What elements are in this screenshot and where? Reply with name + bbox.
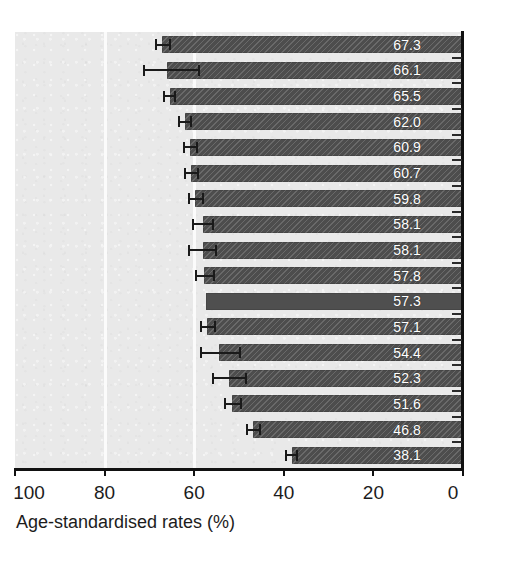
bar-value-label: 62.0: [393, 113, 421, 129]
y-axis-tick: [452, 236, 462, 238]
bar-row: 60.7: [15, 165, 463, 182]
error-bar-cap: [174, 91, 176, 102]
error-bar-cap: [200, 347, 202, 358]
error-bar-cap: [200, 321, 202, 332]
bar-value-label: 58.1: [393, 216, 421, 232]
error-bar-cap: [213, 270, 215, 281]
error-bar-line: [189, 198, 203, 200]
bar: 62.0: [185, 113, 463, 130]
error-bar-cap: [214, 321, 216, 332]
error-bar-cap: [188, 245, 190, 256]
bar: 60.7: [191, 165, 463, 182]
error-bar-cap: [195, 270, 197, 281]
bar-row: 54.4: [15, 344, 463, 361]
x-axis-line: [15, 468, 464, 471]
bar: 46.8: [253, 421, 463, 438]
error-bar-cap: [224, 398, 226, 409]
error-bar-cap: [143, 65, 145, 76]
x-axis-tick: [372, 468, 374, 476]
error-bar-cap: [198, 65, 200, 76]
x-axis-tick: [14, 468, 16, 476]
bar: 51.6: [232, 395, 463, 412]
y-axis-tick: [452, 262, 462, 264]
error-bar-cap: [169, 39, 171, 50]
error-bar-cap: [178, 116, 180, 127]
error-bar-cap: [188, 193, 190, 204]
bar-row: 67.3: [15, 36, 463, 53]
bar-row: 57.3: [15, 293, 463, 310]
error-bar-line: [213, 377, 246, 379]
error-bar-line: [196, 275, 214, 277]
error-bar-line: [225, 403, 241, 405]
error-bar-cap: [215, 245, 217, 256]
x-axis-label: Age-standardised rates (%): [16, 512, 235, 533]
bar-row: 52.3: [15, 370, 463, 387]
error-bar-line: [156, 44, 170, 46]
y-axis-tick: [452, 82, 462, 84]
x-axis-tick: [104, 468, 106, 476]
error-bar-cap: [190, 116, 192, 127]
bar-row: 57.8: [15, 267, 463, 284]
bar-row: 65.5: [15, 88, 463, 105]
bar: 67.3: [162, 36, 464, 53]
bar-value-label: 57.8: [393, 267, 421, 283]
bar-value-label: 67.3: [393, 36, 421, 52]
bar: 66.1: [167, 62, 463, 79]
bar: 59.8: [195, 190, 463, 207]
bar-row: 58.1: [15, 216, 463, 233]
error-bar-cap: [212, 373, 214, 384]
bar-value-label: 58.1: [393, 242, 421, 258]
bar: 54.4: [219, 344, 463, 361]
bar-value-label: 57.1: [393, 319, 421, 335]
bar-value-label: 38.1: [393, 447, 421, 463]
error-bar-cap: [245, 373, 247, 384]
y-axis-tick: [452, 390, 462, 392]
y-axis-tick: [452, 287, 462, 289]
error-bar-cap: [240, 398, 242, 409]
y-axis-tick: [452, 364, 462, 366]
error-bar-line: [144, 69, 198, 71]
bar: 52.3: [229, 370, 463, 387]
x-axis-tick: [193, 468, 195, 476]
y-axis-tick: [452, 416, 462, 418]
bar-row: 51.6: [15, 395, 463, 412]
y-axis-tick: [452, 134, 462, 136]
error-bar-cap: [196, 142, 198, 153]
plot-area: 67.366.165.562.060.960.759.858.158.157.8…: [15, 32, 463, 468]
bar-value-label: 51.6: [393, 396, 421, 412]
error-bar-cap: [259, 424, 261, 435]
error-bar-cap: [197, 168, 199, 179]
bar: 57.8: [204, 267, 463, 284]
error-bar-line: [201, 352, 240, 354]
error-bar-cap: [184, 168, 186, 179]
x-axis-tick-label: 20: [363, 482, 384, 504]
error-bar-line: [201, 326, 215, 328]
y-axis-tick: [452, 185, 462, 187]
bar: 58.1: [203, 242, 463, 259]
x-axis-tick-label: 0: [448, 482, 459, 504]
bar: 57.3: [206, 293, 463, 310]
error-bar-cap: [246, 424, 248, 435]
error-bar-cap: [239, 347, 241, 358]
error-bar-cap: [296, 450, 298, 461]
y-axis-tick: [452, 339, 462, 341]
y-axis-tick: [452, 159, 462, 161]
x-axis-tick-label: 60: [184, 482, 205, 504]
error-bar-cap: [163, 91, 165, 102]
bar-value-label: 46.8: [393, 421, 421, 437]
error-bar-cap: [155, 39, 157, 50]
error-bar-cap: [183, 142, 185, 153]
bar-value-label: 60.7: [393, 165, 421, 181]
error-bar-cap: [192, 219, 194, 230]
bar-row: 62.0: [15, 113, 463, 130]
bar-value-label: 59.8: [393, 190, 421, 206]
bar-row: 57.1: [15, 318, 463, 335]
bar-row: 58.1: [15, 242, 463, 259]
x-axis-tick-label: 80: [94, 482, 115, 504]
error-bar-cap: [285, 450, 287, 461]
bar: 38.1: [292, 447, 463, 464]
x-axis-tick: [283, 468, 285, 476]
y-axis-tick: [452, 108, 462, 110]
y-axis-tick: [452, 211, 462, 213]
x-axis-tick: [462, 468, 464, 476]
